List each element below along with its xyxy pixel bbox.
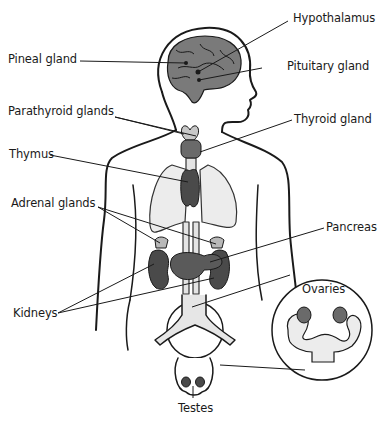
- label-pituitary-gland: Pituitary gland: [287, 61, 369, 73]
- label-ovaries: Ovaries: [302, 284, 345, 296]
- label-hypothalamus: Hypothalamus: [293, 13, 375, 25]
- pelvis: [155, 295, 235, 395]
- label-pineal-gland: Pineal gland: [8, 54, 77, 66]
- thymus: [181, 169, 200, 206]
- label-pancreas: Pancreas: [326, 222, 377, 234]
- label-testes: Testes: [178, 403, 213, 415]
- label-parathyroid-glands: Parathyroid glands: [8, 106, 114, 118]
- label-thyroid-gland: Thyroid gland: [294, 114, 372, 126]
- thyroid: [181, 126, 201, 158]
- label-kidneys: Kidneys: [13, 308, 58, 320]
- brain: [167, 36, 241, 103]
- label-adrenal-glands: Adrenal glands: [11, 198, 95, 210]
- label-thymus: Thymus: [9, 149, 54, 161]
